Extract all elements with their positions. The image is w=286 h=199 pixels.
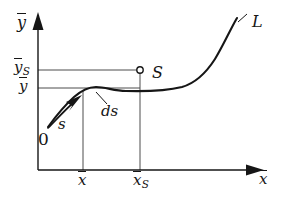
y-tick-label-y-s-subscript: S xyxy=(23,65,30,77)
y-axis-label: y xyxy=(17,15,26,31)
y-tick-label-y-bar-base: y xyxy=(19,79,27,94)
y-axis-arrowhead-icon xyxy=(33,12,44,30)
curve-L-label: L xyxy=(252,14,263,30)
x-tick-label-x-bar: x xyxy=(78,173,86,188)
figure-container: y yS y 0 s ds S L x xS x xyxy=(0,0,286,199)
y-tick-label-y-bar: y xyxy=(19,79,27,94)
y-tick-label-y-s-base: y xyxy=(14,60,22,75)
point-S-marker xyxy=(137,67,143,73)
diagram-canvas xyxy=(0,0,286,199)
x-tick-label-x-s-subscript: S xyxy=(142,178,149,190)
point-S-label: S xyxy=(152,65,163,81)
y-tick-label-y-s: yS xyxy=(14,60,30,77)
arc-length-label: s xyxy=(58,117,66,132)
y-axis-label-text: y xyxy=(17,15,26,31)
axes xyxy=(33,12,265,176)
origin-label: 0 xyxy=(38,131,49,148)
x-tick-label-x-bar-base: x xyxy=(78,173,86,188)
x-axis-label: x xyxy=(259,172,267,187)
x-tick-label-x-s-base: x xyxy=(133,173,141,188)
curve-L-leader-line xyxy=(238,14,247,22)
x-axis-label-text: x xyxy=(259,172,267,187)
x-tick-label-x-s: xS xyxy=(133,173,149,190)
differential-arc-label: ds xyxy=(101,104,118,119)
